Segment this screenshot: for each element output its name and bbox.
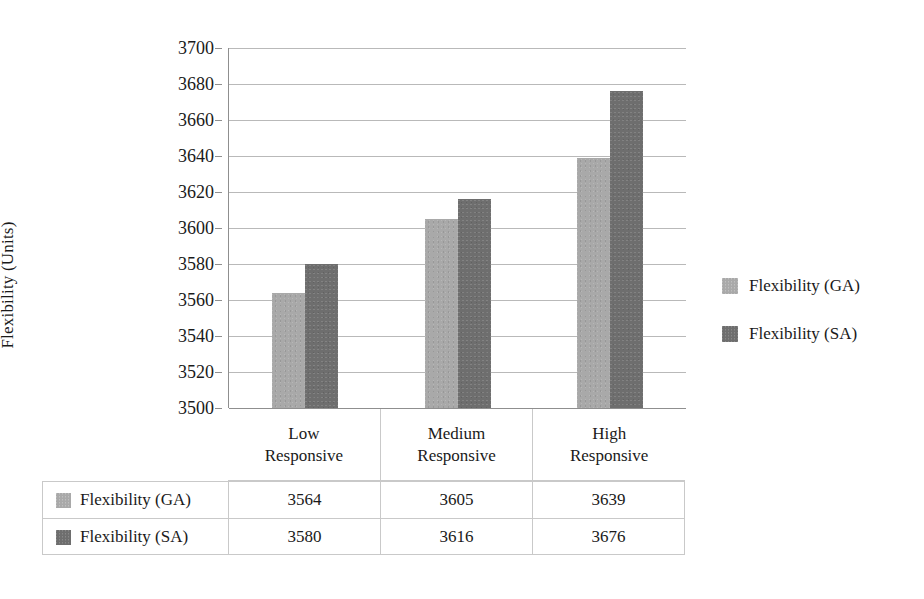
category-label-low-responsive: LowResponsive (228, 409, 381, 480)
y-tick-label: 3500 (178, 399, 214, 417)
table-value-cell: 3605 (381, 482, 533, 518)
y-tick-label: 3520 (178, 363, 214, 381)
legend-item-sa[interactable]: Flexibility (SA) (722, 310, 912, 358)
table-value-cell: 3639 (533, 482, 684, 518)
table-series-label: Flexibility (SA) (80, 527, 188, 547)
category-axis-header: LowResponsiveMediumResponsiveHighRespons… (228, 409, 685, 481)
legend-item-label: Flexibility (GA) (749, 276, 860, 296)
y-tick-mark (215, 228, 222, 229)
y-tick-label: 3540 (178, 327, 214, 345)
category-label-line: Responsive (265, 445, 343, 467)
y-tick-mark (215, 408, 222, 409)
table-row: Flexibility (SA)358036163676 (43, 518, 684, 555)
y-tick-label: 3620 (178, 183, 214, 201)
category-label-line: High (592, 423, 626, 445)
legend-item-ga[interactable]: Flexibility (GA) (722, 262, 912, 310)
bar-medium-responsive-ga (425, 219, 458, 408)
legend: Flexibility (GA)Flexibility (SA) (722, 262, 912, 358)
bar-low-responsive-ga (272, 293, 305, 408)
legend-swatch-ga-icon (722, 278, 738, 294)
y-tick-mark (215, 372, 222, 373)
legend-item-label: Flexibility (SA) (749, 324, 857, 344)
y-axis-ticks: 3700368036603640362036003580356035403520… (150, 48, 222, 408)
table-row: Flexibility (GA)356436053639 (43, 481, 684, 518)
y-tick-label: 3700 (178, 39, 214, 57)
y-tick-mark (215, 48, 222, 49)
bar-medium-responsive-sa (458, 199, 491, 408)
y-tick-label: 3640 (178, 147, 214, 165)
table-series-cell: Flexibility (SA) (43, 519, 229, 555)
table-value-cell: 3616 (381, 519, 533, 555)
legend-swatch-sa-icon (722, 326, 738, 342)
y-tick-mark (215, 264, 222, 265)
y-tick-mark (215, 84, 222, 85)
y-tick-mark (215, 192, 222, 193)
y-tick-label: 3660 (178, 111, 214, 129)
y-tick-label: 3600 (178, 219, 214, 237)
swatch-ga-icon (56, 493, 71, 508)
swatch-sa-icon (56, 530, 71, 545)
y-tick-label: 3580 (178, 255, 214, 273)
bar-high-responsive-ga (577, 158, 610, 408)
table-series-label: Flexibility (GA) (80, 490, 191, 510)
category-label-line: Low (288, 423, 319, 445)
y-tick-label: 3680 (178, 75, 214, 93)
bar-low-responsive-sa (305, 264, 338, 408)
category-label-line: Responsive (417, 445, 495, 467)
y-tick-mark (215, 300, 222, 301)
bar-high-responsive-sa (610, 91, 643, 408)
category-label-line: Responsive (570, 445, 648, 467)
bars-layer (229, 48, 686, 408)
y-tick-label: 3560 (178, 291, 214, 309)
table-value-cell: 3676 (533, 519, 684, 555)
category-label-line: Medium (428, 423, 486, 445)
table-value-cell: 3580 (229, 519, 381, 555)
table-value-cell: 3564 (229, 482, 381, 518)
y-tick-mark (215, 336, 222, 337)
y-axis-title: Flexibility (Units) (0, 160, 18, 410)
category-label-medium-responsive: MediumResponsive (381, 409, 534, 480)
table-series-cell: Flexibility (GA) (43, 482, 229, 518)
data-table: Flexibility (GA)356436053639Flexibility … (42, 481, 685, 555)
category-label-high-responsive: HighResponsive (533, 409, 685, 480)
y-tick-mark (215, 156, 222, 157)
bar-chart-figure: Flexibility (Units) 37003680366036403620… (0, 0, 924, 599)
y-tick-mark (215, 120, 222, 121)
plot-area (228, 48, 685, 408)
